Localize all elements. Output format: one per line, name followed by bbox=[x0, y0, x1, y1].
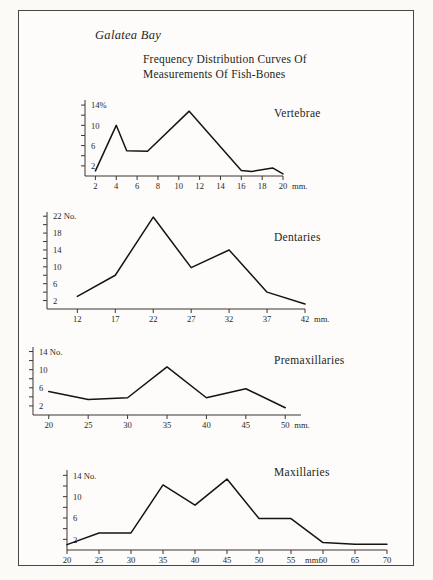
x-tick-label: 20 bbox=[279, 181, 288, 191]
y-tick-label: 14 No. bbox=[73, 471, 96, 481]
x-tick-label: 37 bbox=[263, 314, 272, 324]
curve-maxillaries bbox=[67, 479, 387, 545]
series-label-maxillaries: Maxillaries bbox=[274, 466, 330, 478]
series-label-vertebrae: Vertebrae bbox=[274, 107, 321, 119]
x-tick-label: 18 bbox=[258, 181, 267, 191]
charts-layer: 261014%2468101214161820mm.2610141822 No.… bbox=[19, 11, 413, 565]
x-tick-label: 14 bbox=[216, 181, 225, 191]
x-tick-label: 45 bbox=[223, 555, 232, 565]
x-tick-label: 17 bbox=[111, 314, 120, 324]
y-tick-label: 6 bbox=[91, 141, 96, 151]
y-tick-label: 2 bbox=[53, 296, 57, 306]
x-tick-label: 20 bbox=[44, 420, 53, 430]
x-tick-label: 10 bbox=[174, 181, 183, 191]
y-tick-label: 2 bbox=[73, 535, 77, 545]
x-tick-label: 25 bbox=[84, 420, 93, 430]
y-tick-label: 6 bbox=[39, 383, 44, 393]
x-tick-label: 50 bbox=[255, 555, 264, 565]
x-tick-label: 35 bbox=[163, 420, 172, 430]
x-axis-unit: mm. bbox=[294, 420, 310, 430]
x-tick-label: 35 bbox=[159, 555, 168, 565]
y-tick-label: 2 bbox=[39, 401, 43, 411]
x-axis-unit: mm. bbox=[292, 181, 308, 191]
y-tick-label: 6 bbox=[73, 513, 78, 523]
x-tick-label: 16 bbox=[237, 181, 246, 191]
chart-maxillaries: 261014 No.2025303540455055mm.606570 bbox=[63, 470, 392, 565]
x-tick-label: 45 bbox=[242, 420, 251, 430]
x-tick-label: 6 bbox=[135, 181, 140, 191]
x-tick-label: 42 bbox=[301, 314, 310, 324]
x-tick-label: 40 bbox=[191, 555, 200, 565]
y-tick-label: 10 bbox=[91, 121, 100, 131]
plate-frame: Galatea Bay Frequency Distribution Curve… bbox=[18, 10, 414, 566]
x-tick-label: 30 bbox=[123, 420, 132, 430]
x-tick-label: 22 bbox=[149, 314, 158, 324]
x-tick-label: 30 bbox=[127, 555, 136, 565]
x-tick-label: 12 bbox=[195, 181, 204, 191]
y-tick-label: 2 bbox=[91, 161, 95, 171]
y-tick-label: 18 bbox=[53, 228, 62, 238]
y-tick-label: 10 bbox=[53, 262, 62, 272]
x-tick-label: 32 bbox=[225, 314, 234, 324]
x-tick-label: 40 bbox=[202, 420, 211, 430]
x-tick-label: 50 bbox=[281, 420, 290, 430]
x-axis-unit: mm. bbox=[314, 314, 330, 324]
x-tick-label: 8 bbox=[156, 181, 160, 191]
y-tick-label: 10 bbox=[39, 365, 48, 375]
y-tick-label: 10 bbox=[73, 492, 82, 502]
curve-premaxillaries bbox=[49, 367, 285, 408]
x-tick-label: 70 bbox=[383, 555, 392, 565]
x-tick-label: 27 bbox=[187, 314, 196, 324]
curve-vertebrae bbox=[95, 111, 283, 174]
y-tick-label: 6 bbox=[53, 279, 58, 289]
y-tick-label: 14% bbox=[91, 100, 107, 110]
y-tick-label: 22 No. bbox=[53, 211, 76, 221]
x-tick-label: 60 bbox=[319, 555, 328, 565]
x-tick-label: 2 bbox=[93, 181, 97, 191]
curve-dentaries bbox=[77, 217, 305, 304]
y-tick-label: 14 No. bbox=[39, 347, 62, 357]
chart-dentaries: 2610141822 No.12172227323742mm. bbox=[43, 211, 330, 324]
y-tick-label: 14 bbox=[53, 245, 62, 255]
x-tick-label: 12 bbox=[73, 314, 82, 324]
x-tick-label: 4 bbox=[114, 181, 119, 191]
chart-premaxillaries: 261014 No.20253035404550mm. bbox=[29, 347, 310, 430]
x-tick-label: 55 bbox=[287, 555, 296, 565]
series-label-dentaries: Dentaries bbox=[274, 231, 321, 243]
series-label-premaxillaries: Premaxillaries bbox=[274, 354, 345, 366]
x-tick-label: 25 bbox=[95, 555, 104, 565]
x-tick-label: 65 bbox=[351, 555, 360, 565]
x-tick-label: 20 bbox=[63, 555, 72, 565]
